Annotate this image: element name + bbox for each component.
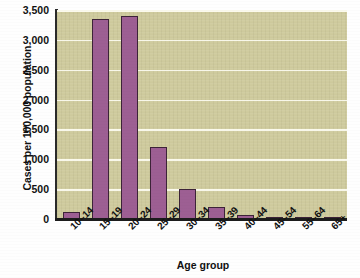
x-tick-label: 65+ xyxy=(329,212,349,232)
x-axis-tick-labels: 10–1415–1920–2425–2930–3435–3940–4445–54… xyxy=(0,0,360,278)
x-tick-label: 25–29 xyxy=(155,204,182,231)
x-tick-label: 55–64 xyxy=(300,204,327,231)
x-tick-label: 35–39 xyxy=(213,204,240,231)
x-tick-label: 10–14 xyxy=(68,204,95,231)
x-tick-label: 20–24 xyxy=(126,204,153,231)
x-tick-label: 30–34 xyxy=(184,204,211,231)
x-tick-label: 40–44 xyxy=(242,204,269,231)
x-tick-label: 45–54 xyxy=(271,204,298,231)
x-tick-label: 15–19 xyxy=(97,204,124,231)
x-axis-title: Age group xyxy=(0,259,360,271)
bar-chart-figure: Cases per 100,000 population 05001,0001,… xyxy=(0,0,360,278)
